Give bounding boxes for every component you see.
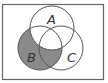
label-a: A bbox=[46, 12, 56, 27]
label-b: B bbox=[27, 50, 36, 65]
venn-diagram: A B C bbox=[0, 0, 108, 83]
label-c: C bbox=[67, 50, 77, 65]
